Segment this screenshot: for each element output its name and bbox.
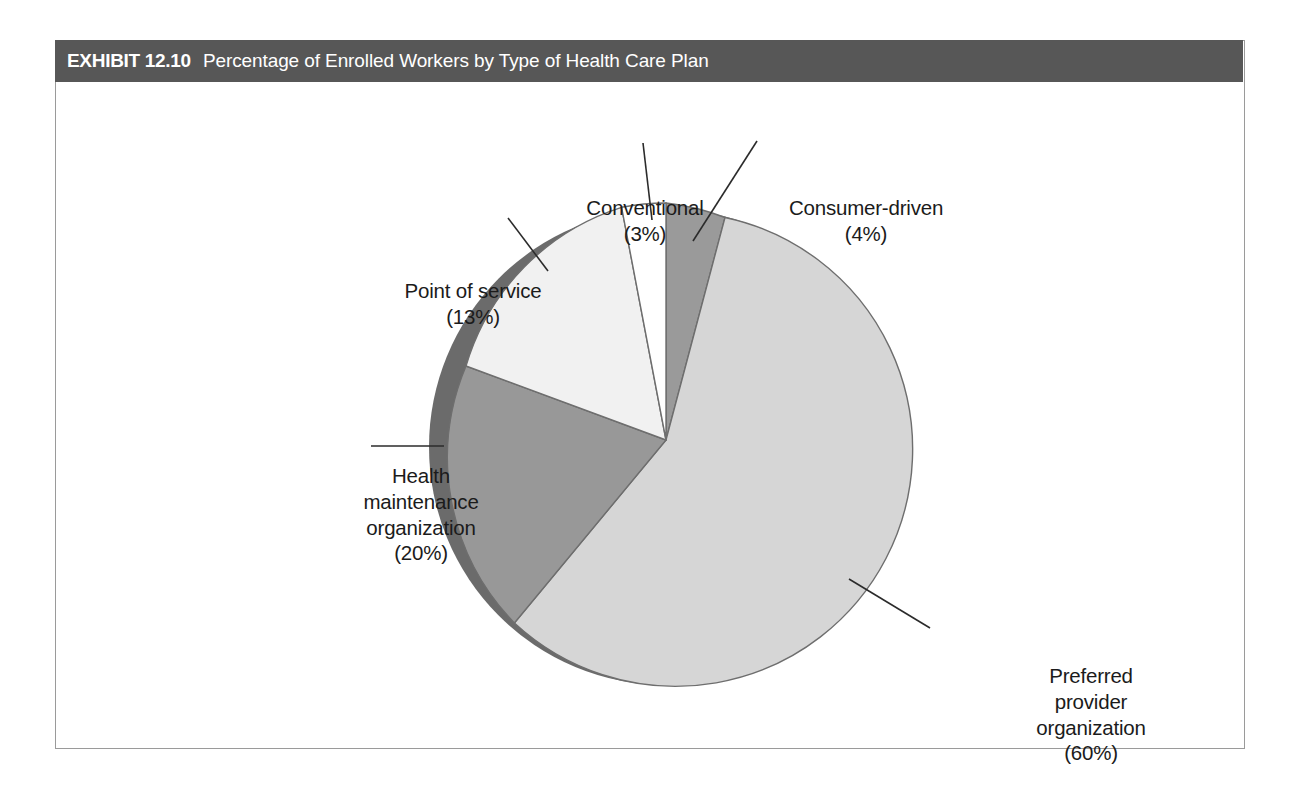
pie-chart-area: Conventional (3%) Consumer-driven (4%) P… <box>56 83 1244 748</box>
exhibit-figure: EXHIBIT 12.10 Percentage of Enrolled Wor… <box>0 0 1292 788</box>
label-consumer-driven: Consumer-driven (4%) <box>756 195 976 247</box>
label-hmo: Health maintenance organization (20%) <box>306 463 536 566</box>
exhibit-title-text: Percentage of Enrolled Workers by Type o… <box>203 50 709 72</box>
label-ppo: Preferred provider organization (60%) <box>981 663 1201 766</box>
label-point-of-service: Point of service (13%) <box>358 278 588 330</box>
leader-line-ppo <box>849 579 930 628</box>
exhibit-number: EXHIBIT 12.10 <box>67 50 191 72</box>
label-conventional: Conventional (3%) <box>545 195 745 247</box>
exhibit-title-bar: EXHIBIT 12.10 Percentage of Enrolled Wor… <box>55 40 1243 82</box>
pie-chart-svg <box>56 83 1244 748</box>
